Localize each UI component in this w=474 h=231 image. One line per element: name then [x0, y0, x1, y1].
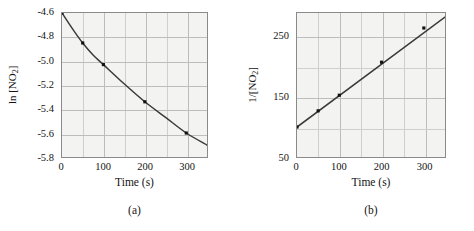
- y-tick-label: -4.6: [14, 7, 54, 18]
- panel-b: 250 150 50 0 100 200 300 1/[NO2] Time (s…: [237, 0, 474, 231]
- y-tick-label: 250: [255, 31, 289, 42]
- x-tick-label: 0: [293, 162, 298, 173]
- y-axis-label-b-sub: 2: [251, 71, 260, 75]
- data-point: [338, 94, 341, 97]
- y-axis-label-b: 1/[NO2]: [246, 50, 260, 120]
- data-point: [143, 100, 146, 103]
- data-point: [102, 63, 105, 66]
- x-tick-label: 300: [417, 162, 433, 173]
- curve-layer-a: [62, 13, 207, 157]
- trend-line: [62, 13, 207, 145]
- y-tick-label: 150: [255, 92, 289, 103]
- x-tick-label: 100: [95, 162, 111, 173]
- plot-area-a: [61, 12, 208, 158]
- y-axis-label-a-post: ]: [6, 66, 18, 70]
- data-point: [185, 131, 188, 134]
- y-axis-label-b-text: 1/[NO: [246, 75, 258, 103]
- panel-a: -4.6 -4.8 -5.0 -5.2 -5.4 -5.6 -5.8 0 100…: [0, 0, 237, 231]
- panel-caption-b: (b): [296, 204, 446, 216]
- y-axis-label-a-sub: 2: [11, 69, 20, 73]
- y-axis-label-a: ln [NO2]: [6, 50, 20, 120]
- y-tick-label: -4.8: [14, 31, 54, 42]
- y-tick-label: -5.8: [14, 153, 54, 164]
- x-tick-label: 300: [179, 162, 195, 173]
- y-axis-label-a-text: ln [NO: [6, 73, 18, 104]
- y-tick-label: -5.6: [14, 128, 54, 139]
- y-tick-label: -5.4: [14, 104, 54, 115]
- x-axis-label-b: Time (s): [296, 176, 446, 188]
- y-tick-label: -5.2: [14, 80, 54, 91]
- plot-area-b: [296, 12, 446, 158]
- x-tick-label: 200: [374, 162, 390, 173]
- kinetics-figure: -4.6 -4.8 -5.0 -5.2 -5.4 -5.6 -5.8 0 100…: [0, 0, 474, 231]
- y-tick-label: -5.0: [14, 55, 54, 66]
- x-tick-label: 0: [58, 162, 63, 173]
- curve-layer-b: [297, 13, 445, 157]
- y-axis-label-b-post: ]: [246, 67, 258, 71]
- y-tick-label: 50: [255, 153, 289, 164]
- data-point: [62, 13, 64, 15]
- data-point: [297, 125, 299, 128]
- x-tick-label: 200: [137, 162, 153, 173]
- x-tick-label: 100: [331, 162, 347, 173]
- panel-caption-a: (a): [61, 204, 208, 216]
- data-point: [81, 41, 84, 44]
- data-point: [317, 109, 320, 112]
- x-axis-label-a: Time (s): [61, 176, 208, 188]
- data-point: [422, 26, 425, 29]
- data-point: [380, 61, 383, 64]
